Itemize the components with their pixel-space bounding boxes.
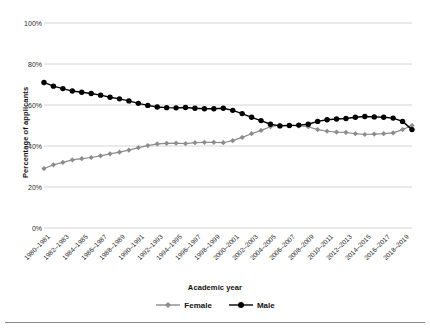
- footer-divider: [5, 322, 425, 323]
- legend-label: Male: [257, 301, 275, 310]
- x-axis-title: Academic year: [0, 283, 430, 292]
- legend-marker-diamond-icon: [155, 300, 181, 310]
- legend-label: Female: [184, 301, 212, 310]
- legend-marker-circle-icon: [228, 300, 254, 310]
- chart-legend: FemaleMale: [0, 300, 430, 310]
- chart-figure: Percentage of applicants 0%20%40%60%80%1…: [0, 0, 430, 333]
- legend-item-male[interactable]: Male: [228, 300, 275, 310]
- legend-item-female[interactable]: Female: [155, 300, 212, 310]
